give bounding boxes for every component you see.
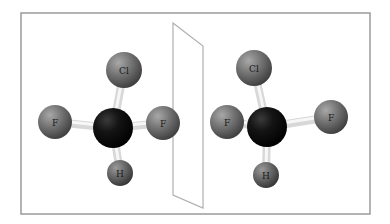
atom-sphere bbox=[247, 107, 287, 147]
atom-label: F bbox=[328, 113, 334, 123]
atom-label: Cl bbox=[119, 66, 129, 76]
atom-f2: F bbox=[314, 100, 348, 134]
atom-label: Cl bbox=[249, 64, 259, 74]
atom-f1: F bbox=[38, 105, 72, 139]
chirality-diagram: ClHFF ClHFF bbox=[0, 0, 390, 224]
atom-h: H bbox=[107, 160, 133, 186]
atom-f1: F bbox=[210, 105, 244, 139]
atom-cl: Cl bbox=[106, 52, 142, 88]
molecule-mirror-image: ClHFF bbox=[210, 50, 348, 188]
atom-c bbox=[93, 108, 133, 148]
atom-label: H bbox=[262, 171, 270, 181]
atom-c bbox=[247, 107, 287, 147]
atom-sphere bbox=[93, 108, 133, 148]
atom-label: H bbox=[116, 169, 124, 179]
atom-label: F bbox=[224, 118, 230, 128]
molecule-original: ClHFF bbox=[38, 52, 180, 186]
atom-label: F bbox=[52, 118, 58, 128]
atom-h: H bbox=[253, 162, 279, 188]
atom-f2: F bbox=[146, 106, 180, 140]
atom-cl: Cl bbox=[236, 50, 272, 86]
atom-label: F bbox=[160, 119, 166, 129]
